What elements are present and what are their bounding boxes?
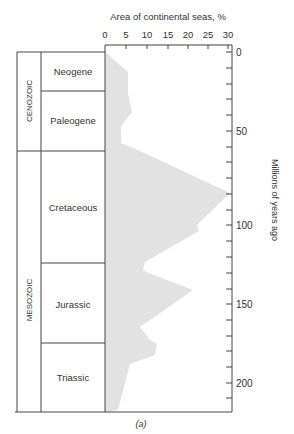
period-label-cretaceous: Cretaceous: [49, 202, 98, 213]
x-tick-20: 20: [183, 29, 194, 40]
era-label-mesozoic: MESOZOIC: [25, 278, 34, 321]
period-label-paleogene: Paleogene: [50, 115, 95, 126]
y-tick-200: 200: [236, 378, 253, 389]
x-axis-title: Area of continental seas, %: [110, 11, 226, 22]
x-tick-0: 0: [102, 29, 107, 40]
y-axis-title: Millions of years ago: [270, 159, 280, 241]
period-label-triassic: Triassic: [57, 372, 90, 383]
y-tick-100: 100: [236, 220, 253, 231]
period-label-jurassic: Jurassic: [56, 299, 91, 310]
top-axis: [105, 45, 232, 49]
right-axis: [226, 45, 232, 412]
x-tick-25: 25: [203, 29, 214, 40]
y-tick-0: 0: [236, 47, 242, 58]
x-tick-30: 30: [223, 29, 234, 40]
period-label-neogene: Neogene: [54, 66, 93, 77]
y-tick-150: 150: [236, 299, 253, 310]
y-tick-50: 50: [236, 126, 248, 137]
x-tick-15: 15: [163, 29, 174, 40]
seas-area-fill: [105, 52, 230, 412]
x-tick-10: 10: [142, 29, 153, 40]
continental-seas-chart: Area of continental seas, % 0 5 10 15 20…: [0, 0, 294, 434]
figure-caption: (a): [136, 419, 147, 429]
x-tick-5: 5: [123, 29, 128, 40]
era-label-cenozoic: CENOZOIC: [25, 80, 34, 122]
